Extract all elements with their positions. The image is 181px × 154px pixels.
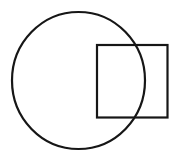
square-shape — [97, 45, 168, 118]
diagram-canvas — [0, 0, 181, 154]
circle-shape — [12, 12, 145, 149]
